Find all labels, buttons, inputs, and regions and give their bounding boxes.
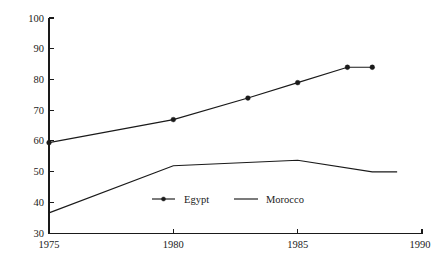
egypt-data-point bbox=[370, 65, 375, 70]
egypt-data-point bbox=[246, 96, 251, 101]
egypt-data-point bbox=[295, 80, 300, 85]
y-tick-label-30: 30 bbox=[34, 228, 45, 239]
egypt-markers bbox=[47, 65, 375, 145]
egypt-data-point bbox=[171, 117, 176, 122]
y-tick-label-40: 40 bbox=[34, 197, 45, 208]
morocco-line bbox=[49, 160, 397, 213]
y-tick-label-100: 100 bbox=[28, 13, 44, 24]
y-tick-label-80: 80 bbox=[34, 74, 45, 85]
chart-canvas: 100 90 80 70 60 50 40 30 1975 1980 1985 … bbox=[0, 0, 445, 269]
x-tick-label-1980: 1980 bbox=[163, 239, 184, 250]
legend-label-egypt: Egypt bbox=[184, 194, 209, 205]
series-morocco bbox=[49, 160, 397, 213]
x-tick-label-1990: 1990 bbox=[410, 239, 431, 250]
y-axis-ticks: 100 90 80 70 60 50 40 30 bbox=[28, 13, 54, 239]
series-egypt bbox=[47, 65, 375, 145]
y-tick-label-60: 60 bbox=[34, 135, 45, 146]
y-tick-label-70: 70 bbox=[34, 105, 45, 116]
chart-legend: Egypt Morocco bbox=[152, 194, 304, 205]
legend-label-morocco: Morocco bbox=[266, 194, 304, 205]
egypt-data-point bbox=[47, 140, 52, 145]
line-chart: 100 90 80 70 60 50 40 30 1975 1980 1985 … bbox=[0, 0, 445, 269]
legend-egypt-marker-icon bbox=[161, 197, 165, 201]
x-tick-label-1975: 1975 bbox=[39, 239, 60, 250]
x-axis-ticks: 1975 1980 1985 1990 bbox=[39, 229, 431, 251]
egypt-data-point bbox=[345, 65, 350, 70]
egypt-line bbox=[49, 67, 372, 142]
y-tick-label-50: 50 bbox=[34, 166, 45, 177]
y-tick-label-90: 90 bbox=[34, 43, 45, 54]
x-tick-label-1985: 1985 bbox=[287, 239, 308, 250]
